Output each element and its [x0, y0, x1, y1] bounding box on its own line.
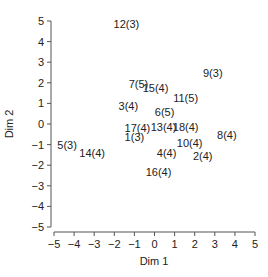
x-axis-label: Dim 1	[140, 255, 169, 267]
x-tick-label: −2	[108, 238, 121, 250]
x-tick-label: 2	[192, 238, 198, 250]
point-label: 2(4)	[193, 150, 213, 162]
point-label: 10(4)	[177, 137, 203, 149]
x-tick-label: −1	[128, 238, 141, 250]
x-tick-label: −3	[88, 238, 101, 250]
y-tick-label: 2	[38, 77, 44, 89]
point-label: 9(3)	[203, 67, 223, 79]
y-tick-label: −1	[31, 139, 44, 151]
point-label: 18(4)	[173, 121, 199, 133]
point-label: 3(4)	[119, 100, 139, 112]
x-tick-label: 3	[212, 238, 218, 250]
point-label: 15(4)	[143, 82, 169, 94]
y-tick-label: −3	[31, 180, 44, 192]
point-label: 6(5)	[155, 106, 175, 118]
y-tick-label: 1	[38, 97, 44, 109]
point-label: 16(4)	[146, 166, 172, 178]
point-label: 12(3)	[114, 18, 140, 30]
point-label: 8(4)	[217, 129, 237, 141]
y-tick-label: 4	[38, 36, 44, 48]
point-label: 5(3)	[57, 139, 77, 151]
x-tick-label: 4	[232, 238, 238, 250]
chart-svg: 543210−1−2−3−4−5 −5−4−3−2−1012345 12(3)9…	[0, 0, 268, 277]
data-points: 12(3)9(3)7(5)15(4)11(5)3(4)6(5)17(4)13(4…	[57, 18, 236, 178]
x-tick-label: −5	[48, 238, 61, 250]
point-label: 11(5)	[173, 92, 198, 104]
y-axis-label: Dim 2	[3, 110, 15, 139]
point-label: 4(4)	[157, 147, 177, 159]
scatter-chart: 543210−1−2−3−4−5 −5−4−3−2−1012345 12(3)9…	[0, 0, 268, 277]
y-axis: 543210−1−2−3−4−5	[31, 15, 51, 233]
y-tick-label: −5	[31, 221, 44, 233]
x-axis: −5−4−3−2−1012345	[48, 232, 258, 250]
y-tick-label: 3	[38, 56, 44, 68]
point-label: 1(3)	[125, 131, 145, 143]
x-tick-label: −4	[68, 238, 81, 250]
y-tick-label: −4	[31, 200, 44, 212]
x-tick-label: 0	[151, 238, 157, 250]
y-tick-label: 5	[38, 15, 44, 27]
x-tick-label: 1	[172, 238, 178, 250]
point-label: 14(4)	[79, 147, 105, 159]
y-tick-label: 0	[38, 118, 44, 130]
y-tick-label: −2	[31, 159, 44, 171]
x-tick-label: 5	[252, 238, 258, 250]
